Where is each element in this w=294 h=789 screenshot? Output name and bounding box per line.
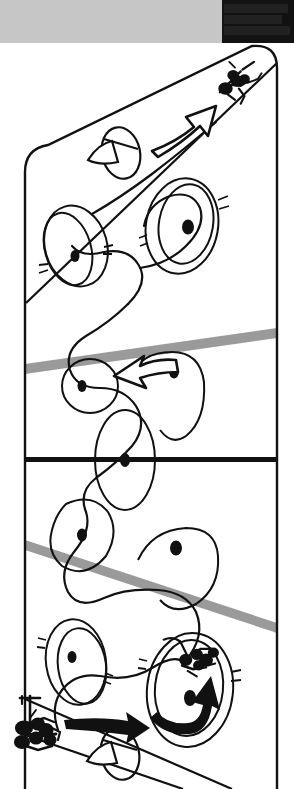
finish-straight-lane [26,63,277,303]
berm-2-marker [182,220,194,235]
roller-band-lower [25,540,277,633]
berm-7-marker [170,541,182,556]
berm-1 [35,198,117,294]
course-diagram [0,0,294,789]
berm-8 [37,615,113,709]
berm-5-marker [120,453,130,467]
berm-2 [138,172,229,279]
arrow-mid-hollow [114,356,178,388]
rider-mid-course [164,638,218,676]
racing-line-path [55,122,216,730]
finish-line-bold [25,457,277,462]
jump-upper [88,124,145,183]
berm-9-marker [184,690,196,706]
arrow-start-solid [64,712,150,744]
track-border [25,46,277,789]
berm-8-marker [68,651,77,663]
track-diagram-page: BMX race track course diagram [0,0,294,789]
